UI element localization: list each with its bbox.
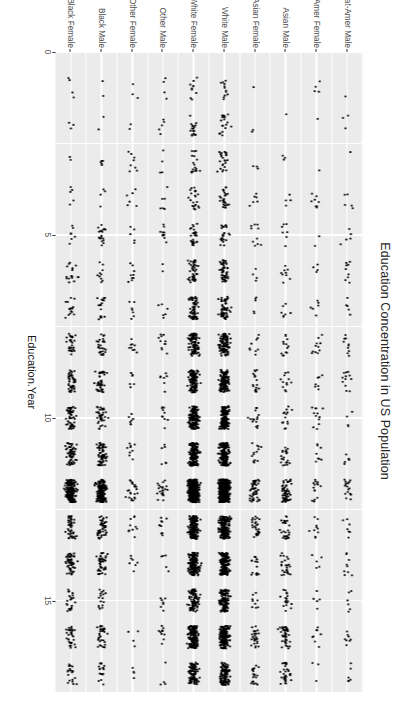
x-axis-tick-mark [53, 52, 56, 53]
x-axis-tick-label: 15 [42, 596, 51, 605]
x-axis-tick-mark [53, 418, 56, 419]
y-axis-tick-label: Other Female [127, 0, 136, 48]
y-axis-tick-mark [161, 49, 162, 52]
y-axis-tick-mark [254, 49, 255, 52]
y-axis-tick-mark [69, 49, 70, 52]
x-axis-tick-label: 5 [42, 233, 51, 238]
x-axis-tick-label: 0 [42, 50, 51, 55]
page-title: Education Concentration in US Population [377, 0, 391, 722]
y-axis-tick-mark [284, 49, 285, 52]
scatter-canvas [55, 52, 362, 692]
y-axis-tick-mark [192, 49, 193, 52]
plot-figure: Education Concentration in US Population… [0, 0, 399, 722]
y-axis-tick-mark [346, 49, 347, 52]
x-axis-tick-label: 10 [42, 413, 51, 422]
x-axis-title: Education.Year [25, 52, 37, 692]
race-sex-axis-ticks: Black FemaleBlack MaleOther FemaleOther … [55, 0, 362, 48]
y-axis-tick-mark [223, 49, 224, 52]
y-axis-tick-mark [315, 49, 316, 52]
y-axis-tick-label: Asian Male [281, 7, 290, 48]
y-axis-tick-label: Nat-Amer Male [342, 0, 351, 48]
scatter-points-layer [55, 52, 362, 692]
y-axis-tick-label: Black Female [66, 0, 75, 48]
y-axis-tick-mark [131, 49, 132, 52]
y-axis-tick-label: Asian Female [250, 0, 259, 48]
y-axis-tick-label: Nat-Amer Female [311, 0, 320, 48]
y-axis-tick-label: Other Male [158, 8, 167, 49]
y-axis-tick-label: Black Male [97, 8, 106, 48]
x-axis-tick-mark [53, 235, 56, 236]
education-year-axis-ticks: 051015 [41, 52, 55, 692]
plot-panel [55, 52, 362, 692]
y-axis-tick-mark [100, 49, 101, 52]
y-axis-tick-label: White Male [219, 7, 228, 48]
x-axis-tick-mark [53, 601, 56, 602]
y-axis-tick-label: White Female [189, 0, 198, 48]
